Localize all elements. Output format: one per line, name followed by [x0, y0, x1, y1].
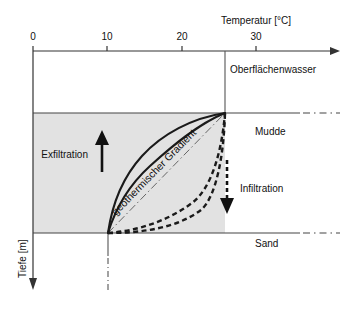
layer-label-sand: Sand	[255, 238, 278, 249]
layer-label-oberflaechenwasser: Oberflächenwasser	[230, 64, 317, 75]
temperature-depth-diagram: 0 10 20 30 Temperatur [°C] Oberflächenwa…	[0, 0, 345, 310]
x-tick-label-0: 0	[30, 31, 36, 42]
layer-label-mudde: Mudde	[255, 126, 286, 137]
x-tick-label-30: 30	[250, 31, 262, 42]
exfiltration-label: Exfiltration	[41, 149, 88, 160]
depth-axis-title: Tiefe [m]	[17, 239, 28, 278]
infiltration-label: Infiltration	[240, 183, 283, 194]
x-tick-label-20: 20	[176, 31, 188, 42]
x-axis-title: Temperatur [°C]	[221, 15, 291, 26]
x-tick-label-10: 10	[101, 31, 113, 42]
depth-axis-title-group: Tiefe [m]	[17, 239, 28, 278]
